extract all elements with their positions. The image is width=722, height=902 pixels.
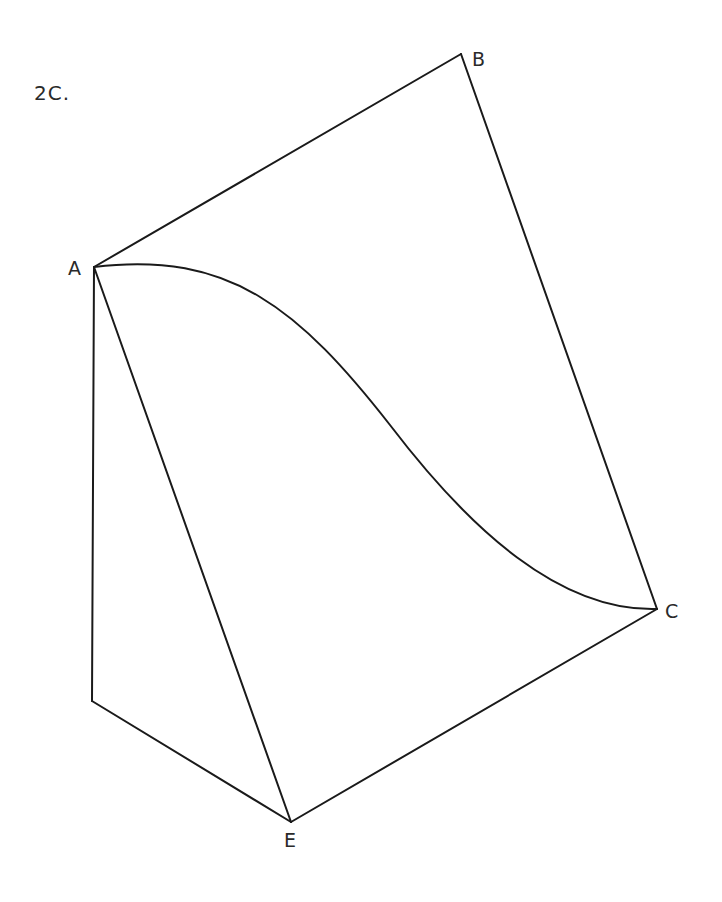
figure-title: 2C. (34, 81, 70, 105)
edge-d-e (92, 701, 291, 822)
edge-a-e (94, 267, 291, 822)
edge-c-e (291, 609, 657, 822)
edge-b-c (461, 54, 657, 609)
label-b: B (472, 48, 485, 70)
label-a: A (68, 257, 81, 279)
curve-a-c (94, 264, 657, 609)
edge-a-b (94, 54, 461, 267)
edge-a-d (92, 267, 94, 701)
label-e: E (284, 829, 296, 851)
wedge-diagram: 2C. A B C E (0, 0, 722, 902)
label-c: C (665, 600, 678, 622)
